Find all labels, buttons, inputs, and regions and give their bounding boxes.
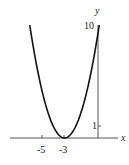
x-tick-label-minus5: -5 (37, 144, 45, 155)
y-axis: y 10 1 (84, 5, 101, 138)
x-axis-label: x (120, 132, 126, 143)
parabola-plot: x -5 -3 y 10 1 (0, 0, 129, 165)
x-axis: x -5 -3 (10, 132, 126, 155)
y-tick-label-1: 1 (92, 120, 97, 131)
x-tick-label-minus3: -3 (59, 144, 67, 155)
parabola-curve (30, 25, 100, 138)
y-tick-label-10: 10 (84, 20, 94, 31)
y-axis-label: y (94, 5, 100, 16)
